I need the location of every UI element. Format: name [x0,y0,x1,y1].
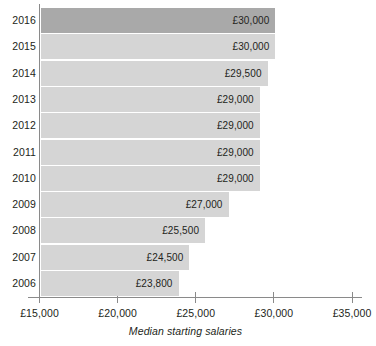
bar-row[interactable]: 2015£30,000 [0,34,371,59]
bar-track: £29,000 [41,113,260,138]
bar-category-label: 2007 [0,245,36,270]
bar-track: £30,000 [41,34,275,59]
bar-track: £24,500 [41,245,189,270]
bar-row[interactable]: 2013£29,000 [0,87,371,112]
bar-row[interactable]: 2014£29,500 [0,61,371,86]
bar-value-label: £30,000 [233,8,270,33]
bar-value-label: £29,000 [217,166,254,191]
bar-row[interactable]: 2006£23,800 [0,271,371,296]
bar-category-label: 2009 [0,192,36,217]
bar-track: £29,000 [41,166,260,191]
x-tick-label: £35,000 [317,307,376,319]
bar-row[interactable]: 2007£24,500 [0,245,371,270]
bar-row[interactable]: 2008£25,500 [0,218,371,243]
bar-value-label: £30,000 [233,34,270,59]
bar-category-label: 2011 [0,140,36,165]
bar-track: £29,000 [41,140,260,165]
bar-category-label: 2016 [0,8,36,33]
bar-category-label: 2008 [0,218,36,243]
bar-category-label: 2010 [0,166,36,191]
bar-row[interactable]: 2012£29,000 [0,113,371,138]
bar-value-label: £24,500 [147,245,184,270]
bar-value-label: £23,800 [136,271,173,296]
x-tick-label: £15,000 [5,307,75,319]
bar-category-label: 2006 [0,271,36,296]
bar-category-label: 2012 [0,113,36,138]
bar-value-label: £29,000 [217,87,254,112]
bar-value-label: £29,500 [225,61,262,86]
x-axis-title: Median starting salaries [0,325,371,337]
bar-track: £30,000 [41,8,275,33]
bar-track: £29,500 [41,61,268,86]
bar-value-label: £25,500 [162,218,199,243]
bar-value-label: £29,000 [217,113,254,138]
bar-track: £27,000 [41,192,229,217]
x-tick-label: £20,000 [83,307,153,319]
x-tick-label: £30,000 [239,307,309,319]
bar-track: £23,800 [41,271,179,296]
bar-track: £25,500 [41,218,205,243]
bar-category-label: 2014 [0,61,36,86]
bar-category-label: 2013 [0,87,36,112]
bar-row[interactable]: 2016£30,000 [0,8,371,33]
bar-row[interactable]: 2009£27,000 [0,192,371,217]
x-tick-label: £25,000 [161,307,231,319]
bar-row[interactable]: 2011£29,000 [0,140,371,165]
bar-value-label: £29,000 [217,140,254,165]
bar-category-label: 2015 [0,34,36,59]
bar-track: £29,000 [41,87,260,112]
bar-row[interactable]: 2010£29,000 [0,166,371,191]
bar-value-label: £27,000 [186,192,223,217]
